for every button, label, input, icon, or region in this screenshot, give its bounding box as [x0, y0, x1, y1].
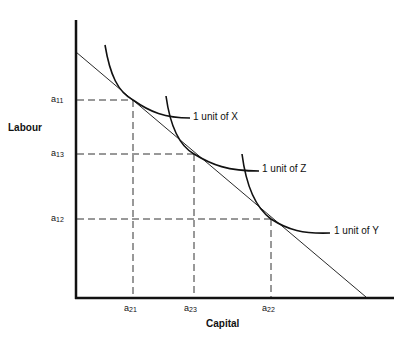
isoquant-z: [166, 96, 259, 171]
x-tick-a23: a23: [184, 303, 197, 313]
y-axis-label: Labour: [8, 122, 42, 133]
isoquant-z-label: 1 unit of Z: [262, 163, 306, 174]
diagram-canvas: [0, 0, 408, 344]
isoquant-x: [105, 45, 190, 118]
x-tick-a21: a21: [124, 303, 137, 313]
x-axis-label: Capital: [206, 318, 239, 329]
y-tick-a12: a12: [51, 213, 64, 223]
isoquant-x-label: 1 unit of X: [193, 111, 238, 122]
isoquant-y-label: 1 unit of Y: [334, 225, 379, 236]
y-tick-a13: a13: [51, 148, 64, 158]
x-tick-a22: a22: [262, 303, 275, 313]
y-tick-a11: a11: [51, 94, 63, 104]
